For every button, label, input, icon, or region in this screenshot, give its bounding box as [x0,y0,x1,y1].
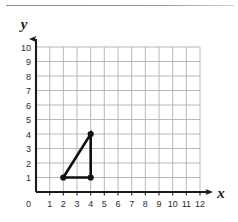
vertex-marker [88,174,94,180]
figure-canvas: 1 2 3 4 5 6 7 8 9 10 11 12 10 9 8 7 6 5 … [0,0,238,222]
x-axis-label: x [216,185,225,201]
grid-lines [36,47,200,192]
y-tick-label: 8 [26,72,31,82]
x-tick-label: 4 [88,199,93,209]
y-tick-label: 9 [26,57,31,67]
x-tick-label: 1 [47,199,52,209]
x-tick-label: 10 [168,199,178,209]
x-tick-label: 8 [143,199,148,209]
y-tick-label: 6 [26,101,31,111]
origin-label: 0 [26,199,31,209]
y-tick-label: 10 [21,43,31,53]
vertex-marker [60,174,66,180]
x-tick-label: 12 [195,199,205,209]
y-tick-label: 7 [26,86,31,96]
x-tick-label: 3 [74,199,79,209]
x-tick-label: 11 [182,199,191,209]
coordinate-plane: 1 2 3 4 5 6 7 8 9 10 11 12 10 9 8 7 6 5 … [0,0,238,222]
y-tick-labels: 10 9 8 7 6 5 4 3 2 1 [21,43,31,184]
y-tick-label: 3 [26,144,31,154]
y-axis-label: y [19,16,28,32]
y-tick-label: 2 [26,159,31,169]
y-tick-label: 1 [26,173,31,183]
x-tick-label: 9 [156,199,161,209]
x-tick-label: 7 [129,199,134,209]
vertex-marker [88,131,94,137]
x-tick-labels: 1 2 3 4 5 6 7 8 9 10 11 12 [47,199,205,209]
x-tick-label: 6 [115,199,120,209]
y-tick-label: 4 [26,130,31,140]
y-tick-label: 5 [26,115,31,125]
x-tick-label: 5 [102,199,107,209]
x-tick-label: 2 [61,199,66,209]
